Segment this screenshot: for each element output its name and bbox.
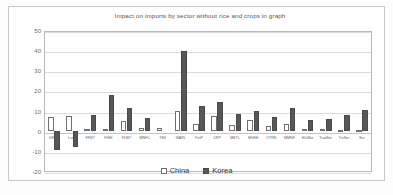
chart-title: Impact on imports by sector without rice… [70,12,330,19]
bar-china-OTRN [266,126,271,131]
bar-korea-FRST [91,115,96,131]
y-tick-label-50: 50 [1,28,41,34]
y-tick-label-0: 0 [1,129,41,135]
x-tick-label-MNFC: MNFC [139,136,149,140]
x-tick-label-TradSer: TradSer [319,136,332,140]
bar-korea-PetP [199,106,204,131]
x-tick-label-FISH: FISH [104,136,112,140]
bar-china-WAPL [175,111,180,131]
bar-korea-MVEH [254,111,259,131]
bar-china-MVEH [247,120,252,131]
bar-china-LveS [66,116,71,131]
x-tick-label-WAPL: WAPL [176,136,186,140]
bar-korea-OTRN [272,117,277,131]
bar-korea-MNFC [145,118,150,132]
bar-korea-FISH [109,95,114,131]
x-tick-label-GRNS: GRNS [49,136,59,140]
x-tick-label-LveS: LveS [68,136,76,140]
legend-label-korea: Korea [212,166,232,175]
x-tick-label-FDBT: FDBT [122,136,131,140]
bar-china-CRP [211,116,216,131]
bar-korea-CRP [217,102,222,131]
y-tick-label-10: 10 [1,109,41,115]
bar-china-PetP [193,124,198,132]
chart-figure: Impact on imports by sector without rice… [0,0,393,195]
legend-swatch-china-icon [161,168,167,174]
bar-korea-MMNF [290,108,295,131]
x-tick-label-OTRN: OTRN [266,136,276,140]
bar-korea-WAPL [181,51,186,131]
y-axis-ticks: 50403020100-10-20 [0,31,41,172]
bar-korea-Svc [362,110,367,131]
bar-china-METL [229,125,234,131]
bar-series-container [45,32,371,171]
chart-legend: China Korea [0,166,393,175]
bar-china-MMNF [284,124,289,131]
x-axis-labels: GRNSLveSFRSTFISHFDBTMNFCTEXWAPLPetPCRPME… [45,136,371,144]
y-tick-label-40: 40 [1,48,41,54]
bar-china-TrnSer [338,130,343,132]
x-tick-label-FRST: FRST [86,136,95,140]
bar-china-FISH [103,129,108,131]
legend-item-china[interactable]: China [161,166,190,175]
x-tick-label-CRP: CRP [213,136,221,140]
legend-swatch-korea-icon [203,168,209,174]
bar-china-MNFC [139,128,144,131]
bar-korea-FDBT [127,108,132,131]
bar-china-ElcWat [302,129,307,131]
bar-china-FDBT [121,121,126,131]
legend-label-china: China [170,166,190,175]
x-tick-label-TrnSer: TrnSer [338,136,349,140]
bar-korea-ElcWat [308,120,313,131]
bar-china-FRST [84,129,89,132]
bar-korea-METL [236,114,241,131]
bar-korea-TrnSer [344,115,349,132]
x-tick-label-MVEH: MVEH [248,136,258,140]
x-tick-label-Svc: Svc [359,136,365,140]
x-tick-label-PetP: PetP [195,136,203,140]
y-tick-label-20: 20 [1,88,41,94]
y-tick-label-30: 30 [1,68,41,74]
bar-korea-TradSer [326,119,331,131]
x-tick-label-TEX: TEX [159,136,166,140]
x-tick-label-METL: METL [230,136,240,140]
legend-item-korea[interactable]: Korea [203,166,232,175]
bar-china-TradSer [320,129,325,131]
x-tick-label-ElcWat: ElcWat [302,136,313,140]
x-tick-label-MMNF: MMNF [284,136,295,140]
bar-china-Svc [356,130,361,132]
y-tick-label--10: -10 [1,149,41,155]
bar-china-GRNS [48,117,53,131]
bar-china-TEX [157,128,162,131]
